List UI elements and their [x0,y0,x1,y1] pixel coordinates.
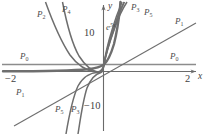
curve-label-p3-top: P3 [131,3,140,13]
curve-label-subscript: 2 [43,14,46,20]
x-axis-label: x [198,72,202,82]
curve-label-subscript: 5 [150,12,153,18]
y-tick-10: 10 [84,28,95,39]
taylor-polynomial-figure: y x 10 −10 −2 2 e5x P2 P4 P3 P5 P1 P0 P0… [0,0,210,136]
y-tick-minus-10: −10 [84,101,100,112]
curve-label-p2-left: P2 [37,10,46,20]
y-axis-label: y [108,2,112,12]
curve-label-p0-left: P0 [20,52,29,62]
curve-label-subscript: 4 [68,9,71,15]
curve-label-subscript: 0 [26,56,29,62]
x-tick-2: 2 [185,74,190,85]
curve-label-p3-bottom: P3 [71,105,80,115]
exponential-exponent: 5x [110,22,116,28]
curve-label-p0-right: P0 [170,52,179,62]
curve-label-subscript: 1 [181,21,184,27]
curve-label-p5-top: P5 [144,8,153,18]
curve-label-p1-left: P1 [16,88,25,98]
exponential-function-label: e5x [106,22,116,32]
curve-label-p5-bottom: P5 [55,105,64,115]
curve-label-subscript: 3 [77,109,80,115]
curve-label-p1-right: P1 [175,17,184,27]
curve-label-subscript: 1 [22,92,25,98]
curve-label-p4: P4 [62,5,71,15]
curve-label-subscript: 5 [61,109,64,115]
curve-label-subscript: 3 [137,7,140,13]
x-tick-minus-2: −2 [5,74,16,85]
curve-p1 [14,23,196,126]
curve-label-subscript: 0 [176,56,179,62]
